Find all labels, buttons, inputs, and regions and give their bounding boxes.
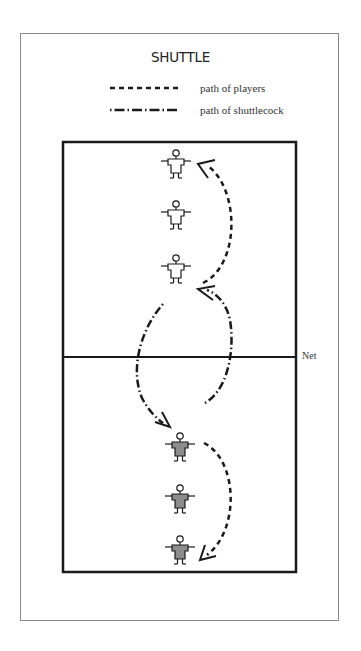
player-top-1	[161, 150, 191, 178]
player-top-2	[161, 201, 191, 229]
court-diagram	[0, 0, 361, 651]
player-path-top	[198, 160, 231, 283]
player-path-bottom	[200, 443, 231, 560]
player-bottom-1	[165, 433, 195, 461]
player-bottom-3	[165, 536, 195, 564]
player-top-3	[161, 255, 191, 283]
player-bottom-2	[165, 485, 195, 513]
